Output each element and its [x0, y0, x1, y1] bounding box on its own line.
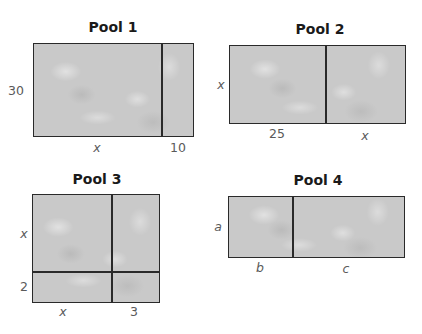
pool-3-width-right-label: 3 — [130, 304, 138, 319]
pool-4-width-right-label: c — [343, 261, 350, 276]
pool-3-rectangle — [32, 194, 160, 303]
pool-2-rectangle — [229, 45, 406, 124]
pool-4-rectangle — [228, 196, 405, 258]
pool-4-title: Pool 4 — [294, 172, 343, 188]
pool-1-width-right-label: 10 — [170, 140, 186, 155]
pool-4-divider — [292, 197, 294, 257]
pool-1-rectangle — [33, 43, 194, 137]
pool-2-width-right-label: x — [361, 128, 368, 143]
pool-3-height-bottom-label: 2 — [20, 279, 28, 294]
pool-1-height-label: 30 — [8, 83, 24, 98]
pool-2-width-left-label: 25 — [269, 126, 285, 141]
pool-3-horizontal-divider — [33, 271, 159, 273]
pool-3-width-left-label: x — [59, 304, 66, 319]
pool-4-width-left-label: b — [256, 260, 264, 275]
pool-1-divider — [161, 44, 163, 136]
pool-4-height-label: a — [214, 219, 222, 234]
pool-1-width-left-label: x — [93, 140, 100, 155]
pool-2-divider — [325, 46, 327, 123]
pool-3-title: Pool 3 — [73, 171, 122, 187]
pool-2-height-label: x — [217, 77, 224, 92]
pool-3-height-top-label: x — [20, 226, 27, 241]
pool-2-title: Pool 2 — [296, 21, 345, 37]
pool-1-title: Pool 1 — [89, 19, 138, 35]
pool-3-vertical-divider — [111, 195, 113, 302]
